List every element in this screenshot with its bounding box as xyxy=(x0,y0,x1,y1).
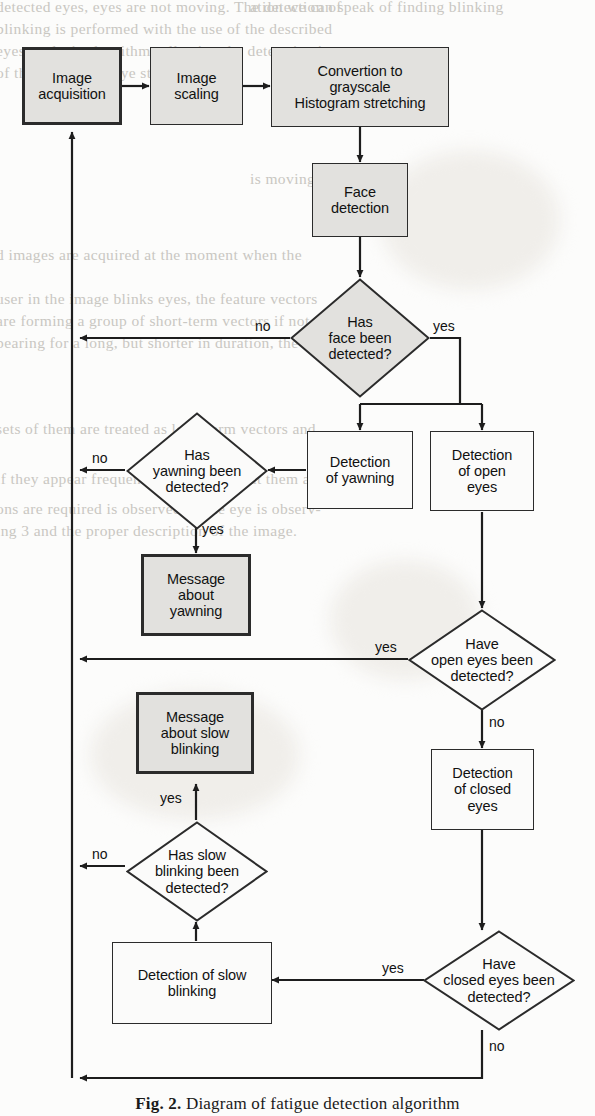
node-image-scaling[interactable]: Imagescaling xyxy=(150,47,243,125)
figure-caption-text: Diagram of fatigue detection algorithm xyxy=(186,1094,460,1113)
node-label: Messageabout slowblinking xyxy=(161,709,229,758)
edge-label-open-eyes-no: no xyxy=(489,714,505,730)
decision-closed-eyes-detected[interactable]: Haveclosed eyes beendetected? xyxy=(423,930,575,1031)
figure-caption-label: Fig. 2. xyxy=(135,1094,181,1113)
edge-label-slow-blink-no: no xyxy=(92,846,108,862)
edge-label-closed-eyes-yes: yes xyxy=(382,960,404,976)
figure-page: ation we can speak of finding blinking d… xyxy=(0,0,595,1116)
edge-label-yawning-no: no xyxy=(92,450,108,466)
node-label: Hasface beendetected? xyxy=(325,314,396,363)
node-label: Detectionof yawning xyxy=(326,454,394,486)
decision-yawning-detected[interactable]: Hasyawning beendetected? xyxy=(126,412,268,530)
node-label: Detection of slowblinking xyxy=(138,967,247,999)
edge-label-open-eyes-yes: yes xyxy=(375,639,397,655)
edge-label-closed-eyes-no: no xyxy=(489,1038,505,1054)
node-label: Imageacquisition xyxy=(38,70,105,102)
node-message-slow-blinking[interactable]: Messageabout slowblinking xyxy=(136,692,254,774)
decision-face-detected[interactable]: Hasface beendetected? xyxy=(290,278,430,398)
node-conversion-grayscale[interactable]: Convertion tograyscaleHistogram stretchi… xyxy=(271,47,449,127)
node-image-acquisition[interactable]: Imageacquisition xyxy=(22,47,122,125)
node-label: Detectionof openeyes xyxy=(452,447,512,496)
node-face-detection[interactable]: Facedetection xyxy=(312,163,408,237)
node-label: Haveclosed eyes beendetected? xyxy=(439,956,558,1005)
node-detection-open-eyes[interactable]: Detectionof openeyes xyxy=(430,431,534,511)
node-label: Hasyawning beendetected? xyxy=(149,447,245,496)
node-label: Detectionof closedeyes xyxy=(452,765,512,814)
node-detection-yawning[interactable]: Detectionof yawning xyxy=(307,431,413,509)
node-message-yawning[interactable]: Messageaboutyawning xyxy=(141,554,251,636)
edge-label-face-no: no xyxy=(255,318,271,334)
node-label: Facedetection xyxy=(331,184,389,216)
edge-label-face-yes: yes xyxy=(433,318,455,334)
decision-slow-blinking-detected[interactable]: Has slowblinking beendetected? xyxy=(126,821,268,922)
node-label: Imagescaling xyxy=(174,70,218,102)
node-label: Has slowblinking beendetected? xyxy=(151,847,243,896)
node-label: Messageaboutyawning xyxy=(167,571,225,620)
node-label: Haveopen eyes beendetected? xyxy=(427,636,537,685)
node-detection-closed-eyes[interactable]: Detectionof closedeyes xyxy=(431,749,534,830)
edge-label-slow-blink-yes: yes xyxy=(160,790,182,806)
figure-caption: Fig. 2. Diagram of fatigue detection alg… xyxy=(0,1094,595,1114)
node-label: Convertion tograyscaleHistogram stretchi… xyxy=(295,63,426,112)
edge-label-yawning-yes: yes xyxy=(202,521,224,537)
decision-open-eyes-detected[interactable]: Haveopen eyes beendetected? xyxy=(408,609,556,711)
node-detection-slow-blinking[interactable]: Detection of slowblinking xyxy=(112,942,272,1024)
